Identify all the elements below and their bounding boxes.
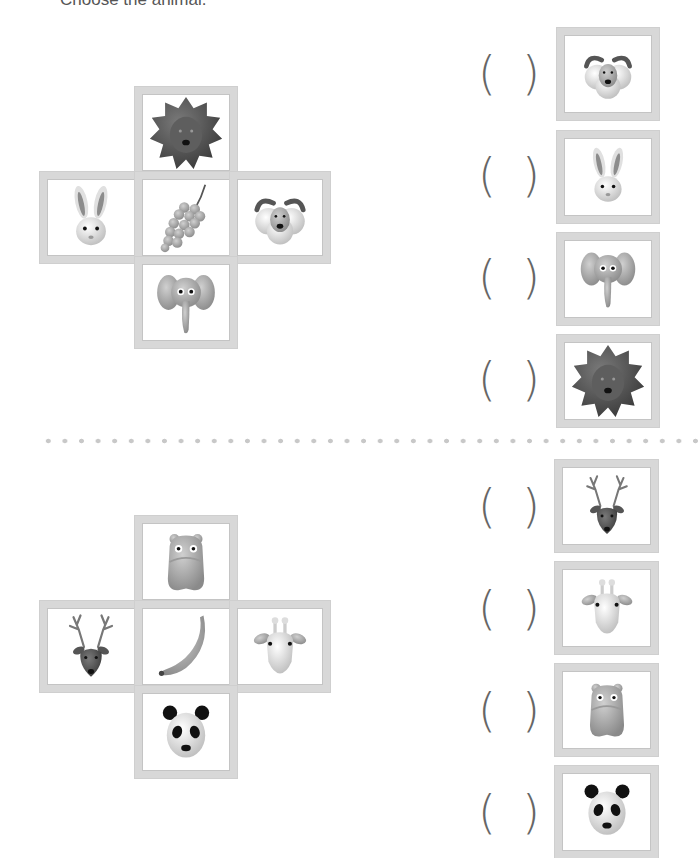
deer-icon [574,473,640,539]
answer-paren-close: ) [522,356,540,402]
grapes-icon [151,183,221,253]
option-frame[interactable] [557,131,659,223]
grid-cell-center [135,601,237,692]
banana-icon [151,612,221,682]
ram-icon [247,185,313,251]
grid-cell-top [135,87,237,178]
option-frame[interactable] [555,460,658,552]
answer-paren-open: ( [478,356,496,402]
answer-paren-open: ( [478,50,496,96]
rabbit-icon [56,183,126,253]
answer-paren-close: ) [522,687,540,733]
dotted-divider [40,437,698,445]
answer-paren-open: ( [478,254,496,300]
answer-paren-open: ( [478,585,496,631]
option-frame[interactable] [555,562,658,654]
option-frame[interactable] [557,335,659,427]
panda-icon [154,700,218,764]
option-frame[interactable] [555,664,658,756]
answer-paren-close: ) [522,585,540,631]
grid-cell-bottom [135,257,237,348]
panda-icon [576,779,638,841]
elephant-icon [575,246,641,312]
hippo-icon [153,529,219,595]
elephant-icon [151,268,221,338]
answer-paren-open: ( [478,152,496,198]
answer-paren-close: ) [522,789,540,835]
grid-cell-top [135,516,237,607]
option-frame[interactable] [555,766,658,858]
answer-paren-open: ( [478,483,496,529]
rabbit-icon [576,145,640,209]
answer-paren-open: ( [478,687,496,733]
grid-cell-right [230,601,330,692]
deer-icon [56,612,126,682]
answer-paren-close: ) [522,483,540,529]
lion-icon [570,343,646,419]
giraffe-icon [247,614,313,680]
answer-paren-close: ) [522,152,540,198]
grid-cell-right [230,172,330,263]
answer-paren-close: ) [522,254,540,300]
ram-icon [577,43,639,105]
grid-cell-left [40,601,142,692]
answer-paren-open: ( [478,789,496,835]
giraffe-icon [575,576,639,640]
answer-paren-close: ) [522,50,540,96]
hippo-icon [576,679,638,741]
instruction-text: Choose the animal. [60,0,206,10]
option-frame[interactable] [557,28,659,120]
grid-cell-center [135,172,237,263]
option-frame[interactable] [557,233,659,325]
lion-icon [148,95,224,171]
grid-cell-left [40,172,142,263]
grid-cell-bottom [135,686,237,778]
